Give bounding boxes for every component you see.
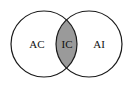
intersection-label: IC (62, 38, 73, 50)
venn-diagram: AC IC AI (0, 0, 131, 89)
set-ai-label: AI (93, 38, 105, 50)
set-ac-label: AC (29, 38, 44, 50)
